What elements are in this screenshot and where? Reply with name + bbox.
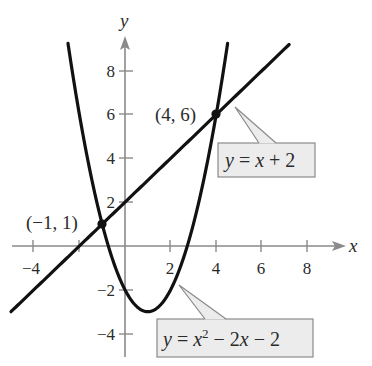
y-tick-label: 6 [107,105,116,124]
x-tick-label: −4 [22,259,41,278]
axes [12,42,338,357]
x-axis-label: x [348,235,358,256]
y-tick-label: −4 [97,325,116,344]
parabola-curve [68,43,228,311]
parabola-callout: y = x2 − 2x − 2 [157,285,313,357]
line-equation: y = x + 2 [223,149,295,172]
y-axis-label: y [118,10,129,31]
line-callout: y = x + 2 [218,107,315,177]
x-tick-label: 8 [303,259,312,278]
x-tick-label: 4 [212,259,221,278]
y-tick-label: 4 [107,149,116,168]
point-label-a: (−1, 1) [26,212,78,234]
point-label-b: (4, 6) [155,104,196,126]
parabola-equation: y = x2 − 2x − 2 [161,326,280,351]
x-tick-label: 2 [166,259,175,278]
intersection-point-a [97,219,106,228]
y-tick-label: −2 [97,281,115,300]
line-curve [11,45,289,312]
intersection-point-b [211,109,220,118]
graph-figure: −4 2 4 6 8 8 6 4 2 −2 −4 x y (−1, 1) (4,… [0,0,372,366]
y-tick-label: 2 [107,193,116,212]
x-tick-label: 6 [257,259,266,278]
y-tick-label: 8 [107,62,116,81]
